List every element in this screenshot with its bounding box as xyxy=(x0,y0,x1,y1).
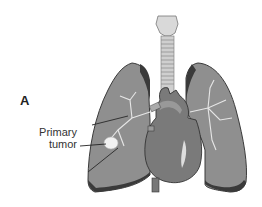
lungs-heart-illustration xyxy=(0,0,262,207)
vena-cava xyxy=(152,178,159,192)
right-lung xyxy=(88,63,150,192)
tumor-mass xyxy=(104,137,118,149)
trachea xyxy=(156,16,178,94)
